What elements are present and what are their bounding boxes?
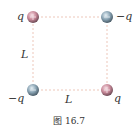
label-side-left: L xyxy=(21,49,28,60)
label-top-left-charge: q xyxy=(17,11,24,22)
square-sides xyxy=(33,17,107,90)
label-bottom-right-charge: q xyxy=(114,93,121,104)
label-bottom-left-charge: −q xyxy=(8,93,24,104)
charge-top-left xyxy=(27,11,39,23)
label-side-bottom: L xyxy=(65,94,72,105)
label-top-right-charge: −q xyxy=(116,11,132,22)
figure-caption: 图 16.7 xyxy=(0,114,138,127)
charge-bottom-left xyxy=(27,84,39,96)
charge-top-right xyxy=(101,11,113,23)
charge-bottom-right xyxy=(101,84,113,96)
